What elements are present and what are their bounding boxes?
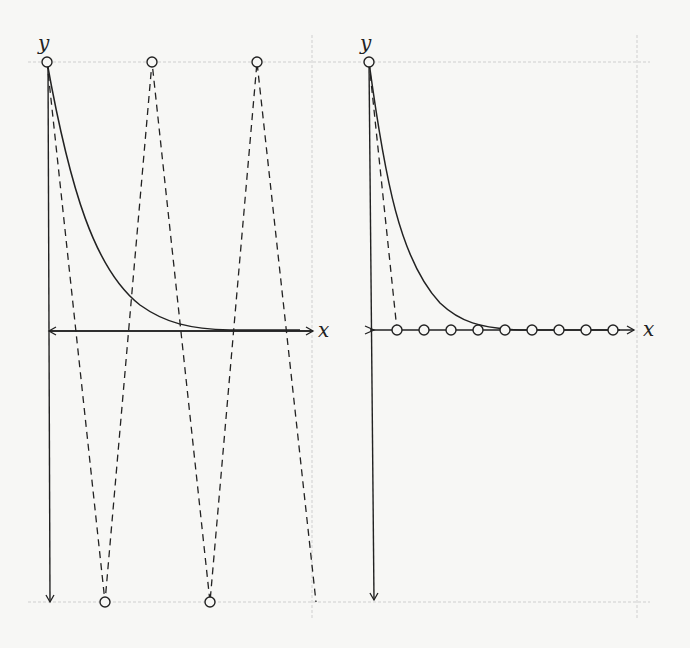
figure-canvas: y x y x <box>0 0 690 648</box>
left-x-label: x <box>318 318 329 342</box>
left-y-axis <box>48 62 50 602</box>
right-y-label: y <box>359 31 372 55</box>
left-zigzag-dashed <box>47 62 316 602</box>
right-panel: y x <box>359 31 654 600</box>
right-dashed-segment <box>369 62 397 330</box>
right-x-label: x <box>643 317 654 341</box>
right-decay-curve <box>369 62 620 330</box>
left-panel: y x <box>37 31 329 607</box>
right-points <box>364 57 618 335</box>
left-decay-curve <box>47 62 300 330</box>
left-points <box>42 57 262 607</box>
left-y-label: y <box>37 31 50 55</box>
